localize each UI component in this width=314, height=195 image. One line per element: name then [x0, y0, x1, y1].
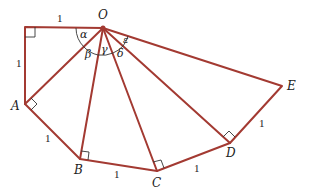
- hub-point-O: [101, 26, 106, 31]
- vertex-label-D: D: [225, 146, 236, 160]
- ray-OD: [103, 28, 230, 143]
- side-label-left: 1: [16, 57, 22, 69]
- outer-boundary: [25, 27, 282, 171]
- angle-label-beta: β: [84, 48, 91, 61]
- vertex-label-C: C: [152, 176, 161, 190]
- right-angle-marker-D: [223, 131, 235, 137]
- vertex-label-O: O: [98, 8, 108, 22]
- angle-label-alpha: α: [80, 28, 88, 41]
- vertex-label-A: A: [10, 99, 20, 113]
- angle-label-epsilon: ε: [123, 34, 128, 45]
- vertex-label-E: E: [286, 79, 296, 93]
- side-label-CD: 1: [194, 162, 200, 174]
- side-label-DE: 1: [259, 117, 265, 129]
- side-label-AB: 1: [45, 132, 51, 144]
- right-angle-marker-A: [31, 98, 37, 110]
- spiral-triangle-diagram: O A B C D E 1 1 1 1 1 1 α β γ δ ε: [0, 0, 314, 195]
- side-label-BC: 1: [114, 168, 120, 180]
- right-angle-marker-corner: [25, 27, 35, 37]
- ray-OC: [103, 28, 157, 171]
- angle-label-gamma: γ: [101, 43, 108, 56]
- vertex-label-B: B: [73, 163, 83, 177]
- angle-label-delta: δ: [117, 47, 124, 60]
- side-label-top: 1: [57, 12, 63, 24]
